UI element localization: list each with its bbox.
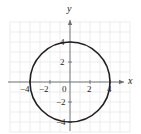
coordinate-plane-svg	[0, 0, 141, 134]
y-axis-label: y	[67, 4, 71, 14]
y-tick-label-neg4: −4	[56, 118, 66, 127]
origin-label: 0	[62, 85, 67, 94]
x-tick-label-neg4: −4	[20, 85, 30, 94]
y-axis	[68, 20, 72, 131]
x-axis-arrow	[119, 80, 124, 84]
x-tick-label-4: 4	[107, 85, 112, 94]
y-tick-label-2: 2	[60, 58, 65, 67]
y-axis-arrow	[68, 20, 72, 25]
x-axis-label: x	[128, 76, 132, 86]
y-tick-label-neg2: −2	[56, 98, 66, 107]
y-tick-label-4: 4	[60, 38, 65, 47]
x-tick-label-2: 2	[87, 85, 92, 94]
x-tick-label-neg2: −2	[39, 85, 49, 94]
graph-figure: −4 −2 2 4 0 4 2 −2 −4 y x	[0, 0, 141, 134]
